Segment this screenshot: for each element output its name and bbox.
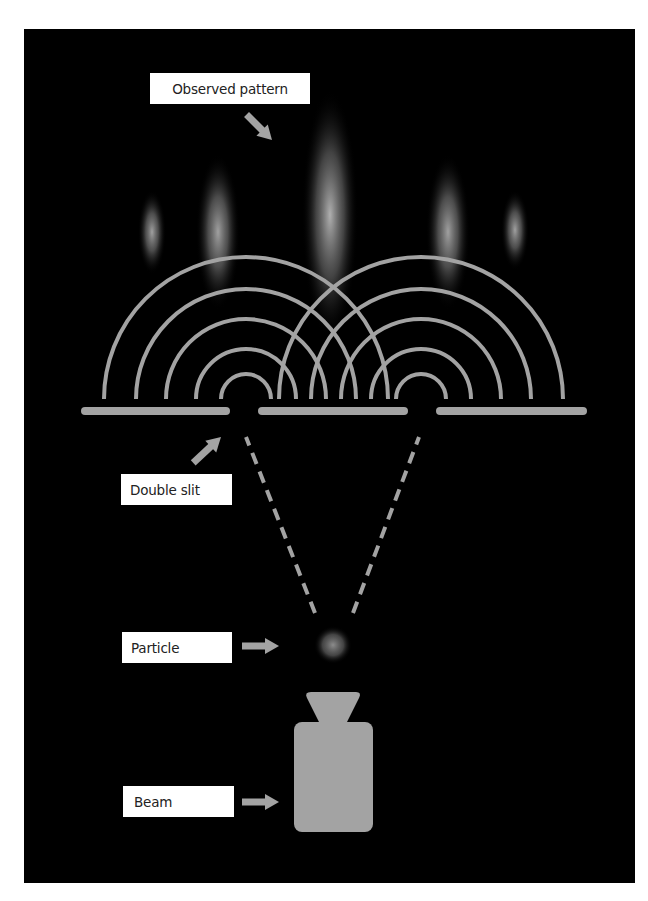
particle-label: Particle [122, 632, 232, 663]
double-slit-diagram [0, 0, 648, 901]
pattern-band-right [426, 154, 470, 310]
beam-label: Beam [123, 786, 234, 817]
observed-pattern-label: Observed pattern [150, 73, 310, 104]
path-to-left-slit [246, 437, 315, 613]
beam-arrow-icon [242, 794, 279, 810]
pattern-band-left [196, 154, 240, 310]
emitter-body [294, 722, 373, 832]
emitter-nozzle [306, 692, 360, 724]
pattern-band-far-right [501, 190, 529, 270]
observed-pattern-arrow-icon [241, 109, 278, 146]
beam-emitter [294, 692, 373, 832]
pattern-band-far-left [138, 190, 166, 274]
particle-paths [246, 437, 419, 613]
double-slit-arrow-icon [188, 431, 227, 469]
particle-arrow-icon [242, 638, 279, 654]
double-slit-label: Double slit [121, 474, 232, 505]
path-to-right-slit [353, 437, 419, 613]
particle [314, 626, 352, 664]
